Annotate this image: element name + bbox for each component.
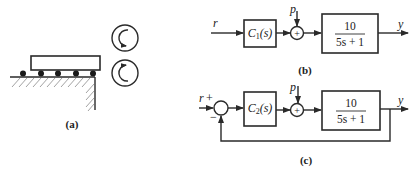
panel-b-label: (b) [298,64,312,77]
feedback-minus-sign: − [210,110,217,124]
panel-a-label: (a) [66,118,79,131]
top-roller [112,25,138,51]
plant-denominator: 5s + 1 [337,113,365,125]
panel-c-label: (c) [300,154,313,167]
bottom-roller [112,60,138,86]
sum-sign: + [294,105,300,116]
panel-b-open-loop: r C1(s) p + 10 5s + 1 y (b) [211,2,408,77]
input-r-label: r [199,91,204,105]
platform [31,56,100,70]
figure-canvas: (a) r C1(s) p + 10 5s + 1 y (b) r + − C2… [0,0,413,174]
input-plus-sign: + [206,91,213,105]
panel-a-mechanism: (a) [10,25,138,131]
output-y-label: y [397,93,404,107]
disturbance-p-label: p [289,80,296,94]
ball-bearings [20,71,96,77]
controller-c1-label: C1(s) [248,26,273,41]
ground [10,77,95,111]
panel-c-closed-loop: r + − C2(s) p + 10 5s + 1 y (c) [199,80,408,167]
input-r-label: r [213,16,218,30]
plant-numerator: 10 [344,20,356,32]
plant-denominator: 5s + 1 [336,36,364,48]
controller-c2-label: C2(s) [248,101,273,116]
output-y-label: y [397,17,404,31]
disturbance-p-label: p [289,2,296,16]
sum-sign: + [294,28,300,39]
plant-numerator: 10 [345,97,357,109]
